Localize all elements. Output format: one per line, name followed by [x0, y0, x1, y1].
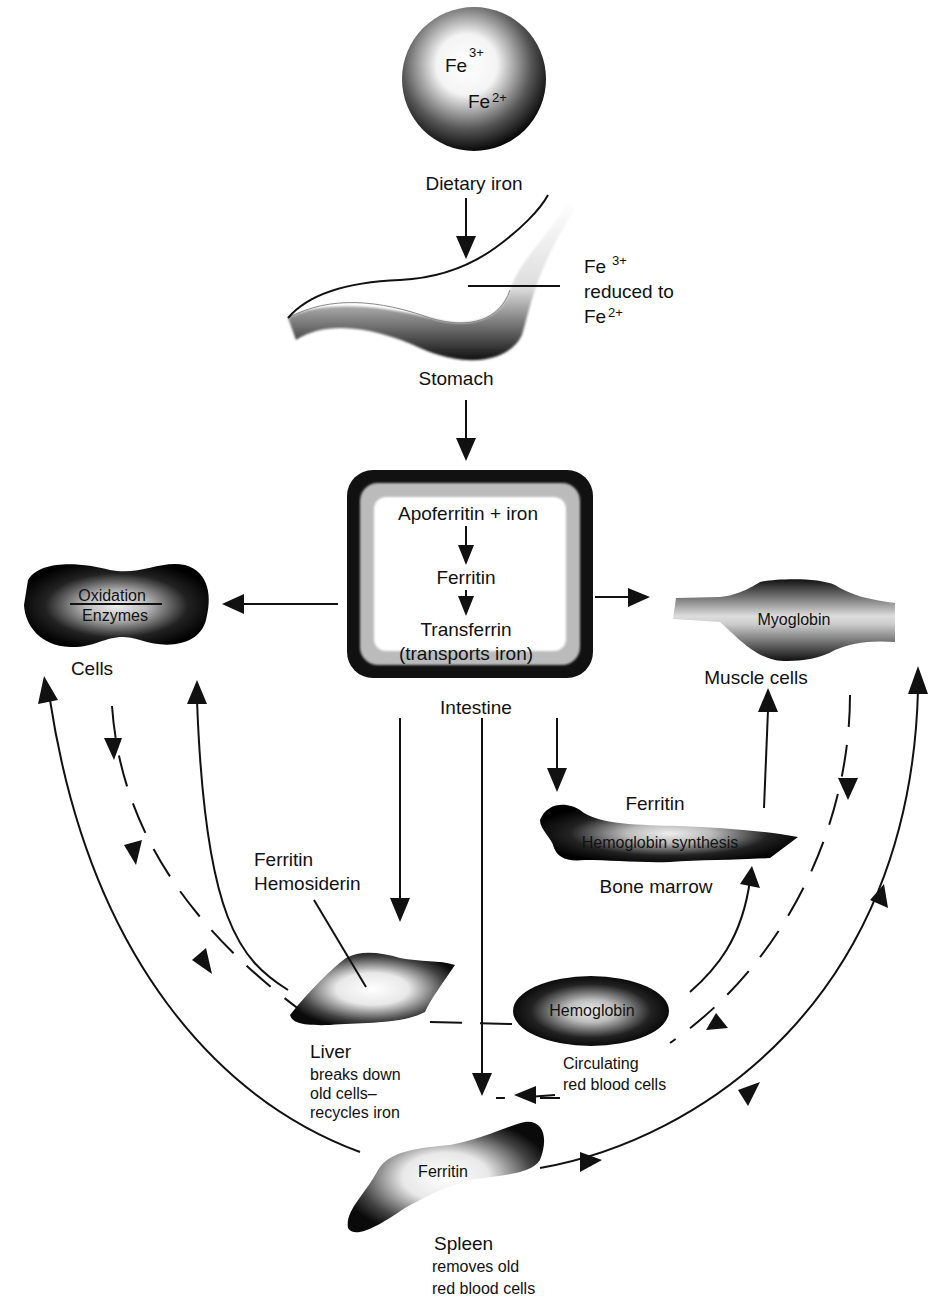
svg-text:Circulating: Circulating [563, 1055, 639, 1072]
svg-text:Fe: Fe [584, 306, 606, 327]
arrow-rbc-to-spleen [496, 1086, 555, 1104]
liver-rbc-connector [430, 1022, 512, 1024]
svg-text:Spleen: Spleen [434, 1233, 493, 1254]
liver-node: Ferritin Hemosiderin Liver breaks down o… [254, 849, 455, 1121]
arrow-stomach-to-intestine [456, 400, 476, 461]
svg-text:breaks down: breaks down [310, 1066, 401, 1083]
svg-text:recycles iron: recycles iron [310, 1104, 400, 1121]
svg-text:Myoglobin: Myoglobin [758, 611, 831, 628]
svg-text:2+: 2+ [608, 305, 623, 320]
arrow-muscle-to-rbc [670, 695, 858, 1043]
arrow-intestine-to-bone-marrow [547, 718, 567, 792]
intestine-node: Apoferritin + iron Ferritin Transferrin … [347, 470, 593, 718]
svg-text:removes old: removes old [432, 1258, 519, 1275]
cells-node: Oxidation Enzymes Cells [24, 564, 209, 679]
svg-text:Ferritin: Ferritin [254, 849, 313, 870]
svg-text:Fe: Fe [445, 55, 467, 76]
arrow-bone-marrow-to-muscle [758, 688, 778, 808]
svg-text:3+: 3+ [612, 253, 627, 268]
svg-text:reduced to: reduced to [584, 281, 674, 302]
arrow-dietary-to-stomach [456, 198, 476, 259]
svg-text:Transferrin: Transferrin [420, 619, 511, 640]
svg-text:(transports iron): (transports iron) [399, 643, 533, 664]
svg-text:Hemoglobin synthesis: Hemoglobin synthesis [582, 834, 739, 851]
svg-text:red blood cells: red blood cells [432, 1280, 535, 1297]
arrow-spleen-to-muscle [540, 666, 928, 1172]
svg-text:3+: 3+ [469, 45, 484, 60]
svg-text:2+: 2+ [492, 90, 507, 105]
svg-text:Oxidation: Oxidation [78, 587, 146, 604]
svg-text:Fe: Fe [468, 91, 490, 112]
svg-text:Muscle cells: Muscle cells [704, 667, 807, 688]
iron-metabolism-diagram: Fe 3+ Fe 2+ Dietary iron Fe 3+ reduced t… [0, 0, 941, 1303]
svg-text:Fe: Fe [584, 256, 606, 277]
svg-text:Ferritin: Ferritin [418, 1163, 468, 1180]
svg-text:Dietary iron: Dietary iron [425, 173, 522, 194]
svg-text:Stomach: Stomach [419, 368, 494, 389]
svg-text:Hemoglobin: Hemoglobin [549, 1002, 634, 1019]
svg-text:Bone marrow: Bone marrow [600, 876, 713, 897]
spleen-node: Ferritin Spleen removes old red blood ce… [348, 1122, 544, 1297]
svg-text:Cells: Cells [71, 658, 113, 679]
svg-text:Liver: Liver [310, 1041, 352, 1062]
red-blood-cells-node: Hemoglobin Circulating red blood cells [513, 976, 669, 1093]
arrow-intestine-to-muscle [595, 588, 650, 607]
svg-text:red blood cells: red blood cells [563, 1076, 666, 1093]
svg-text:Enzymes: Enzymes [82, 607, 148, 624]
arrow-intestine-to-liver [390, 718, 410, 922]
arrow-liver-to-cells [187, 680, 288, 990]
arrow-intestine-to-cells [222, 594, 338, 614]
bone-marrow-node: Ferritin Hemoglobin synthesis Bone marro… [540, 793, 798, 897]
svg-text:Intestine: Intestine [440, 697, 512, 718]
svg-text:Ferritin: Ferritin [436, 567, 495, 588]
arrow-intestine-to-spleen [472, 718, 492, 1096]
stomach-node: Fe 3+ reduced to Fe 2+ Stomach [288, 195, 674, 389]
svg-text:old cells–: old cells– [310, 1085, 377, 1102]
svg-text:Ferritin: Ferritin [625, 793, 684, 814]
svg-text:Apoferritin + iron: Apoferritin + iron [398, 503, 538, 524]
dietary-iron-node: Fe 3+ Fe 2+ Dietary iron [402, 7, 546, 194]
muscle-cells-node: Myoglobin Muscle cells [673, 579, 895, 688]
svg-text:Hemosiderin: Hemosiderin [254, 873, 361, 894]
